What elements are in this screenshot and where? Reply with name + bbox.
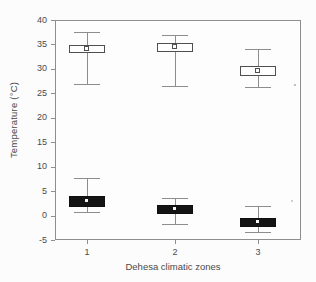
x-tick [258, 240, 259, 244]
x-tick [175, 240, 176, 244]
maximum-temperature-mean-marker-zone1 [84, 46, 89, 51]
y-tick-label: -5 [27, 236, 47, 245]
y-tick [51, 20, 55, 21]
y-tick [51, 167, 55, 168]
maximum-temperature-whisker-cap-low-zone2 [162, 86, 188, 87]
scan-speck [291, 200, 293, 202]
y-tick [51, 93, 55, 94]
maximum-temperature-mean-marker-zone2 [172, 44, 177, 49]
minimum-temperature-whisker-cap-high-zone1 [74, 178, 100, 179]
maximum-temperature-whisker-cap-low-zone1 [74, 84, 100, 85]
y-tick-label: 25 [27, 89, 47, 98]
y-tick [51, 191, 55, 192]
maximum-temperature-whisker-zone1 [87, 32, 88, 84]
minimum-temperature-whisker-cap-high-zone2 [162, 198, 188, 199]
minimum-temperature-mean-marker-zone2 [173, 207, 176, 210]
y-tick-label: 10 [27, 162, 47, 171]
maximum-temperature-whisker-cap-low-zone3 [245, 87, 271, 88]
x-tick-label: 2 [165, 248, 185, 257]
x-tick-label: 1 [77, 248, 97, 257]
minimum-temperature-whisker-cap-low-zone1 [74, 212, 100, 213]
minimum-temperature-whisker-cap-high-zone3 [245, 206, 271, 207]
y-tick-label: 0 [27, 211, 47, 220]
minimum-temperature-mean-marker-zone1 [85, 199, 88, 202]
y-tick [51, 240, 55, 241]
minimum-temperature-whisker-cap-low-zone2 [162, 224, 188, 225]
y-tick [51, 118, 55, 119]
x-tick-label: 3 [248, 248, 268, 257]
x-axis-title: Dehesa climatic zones [113, 261, 233, 272]
y-axis-title: Temperature (°C) [8, 82, 19, 158]
y-tick [51, 216, 55, 217]
y-tick-label: 40 [27, 16, 47, 25]
y-tick-label: 5 [27, 187, 47, 196]
y-tick-label: 35 [27, 40, 47, 49]
boxplot-figure: Temperature (°C) 4035302520151050-5123 D… [0, 0, 316, 282]
maximum-temperature-whisker-cap-high-zone1 [74, 32, 100, 33]
scan-speck [294, 84, 296, 86]
y-tick-label: 20 [27, 113, 47, 122]
maximum-temperature-mean-marker-zone3 [255, 68, 260, 73]
minimum-temperature-mean-marker-zone3 [256, 220, 259, 223]
y-tick [51, 142, 55, 143]
maximum-temperature-whisker-cap-high-zone3 [245, 49, 271, 50]
maximum-temperature-whisker-cap-high-zone2 [162, 35, 188, 36]
maximum-temperature-whisker-zone2 [175, 35, 176, 86]
minimum-temperature-whisker-cap-low-zone3 [245, 232, 271, 233]
y-tick-label: 15 [27, 138, 47, 147]
y-tick [51, 69, 55, 70]
x-tick [87, 240, 88, 244]
y-tick [51, 44, 55, 45]
y-tick-label: 30 [27, 64, 47, 73]
